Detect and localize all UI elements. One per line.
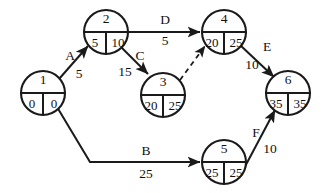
edge-d-duration: 5 [162,33,169,48]
edge-f-label: F [252,125,260,140]
node-1-earliest: 0 [29,96,36,111]
edge-dummy-3-4 [180,46,205,80]
node-4-id: 4 [221,11,228,26]
edge-d: D 5 [128,12,200,48]
edge-a-label: A [65,48,75,63]
node-4-earliest: 20 [206,35,219,50]
node-3-earliest: 20 [145,98,158,113]
node-6-latest: 35 [294,96,307,111]
edge-dummy-3-4-line [180,46,205,80]
edge-c-duration: 15 [118,64,132,79]
node-6-id: 6 [285,72,292,87]
edge-c-label: C [135,48,144,63]
node-6-earliest: 35 [270,96,283,111]
edge-b: B 25 [57,107,200,181]
edge-a: A 5 [59,46,88,81]
node-6[interactable]: 6 35 35 [266,71,310,115]
edge-a-duration: 5 [76,66,83,81]
node-5[interactable]: 5 25 25 [202,140,246,184]
node-1-latest: 0 [51,96,58,111]
node-2-id: 2 [103,11,110,26]
node-2[interactable]: 2 5 10 [84,10,128,54]
edge-e: E 10 [240,39,274,77]
edge-b-label: B [141,143,150,158]
node-4-latest: 25 [230,35,243,50]
network-diagram-canvas: A 5 C 15 D 5 E 10 B 25 [0,0,329,193]
node-5-earliest: 25 [206,165,219,180]
edge-f-duration: 10 [263,141,277,156]
edge-d-label: D [160,12,170,27]
edge-e-duration: 10 [245,57,259,72]
node-3-latest: 25 [169,98,182,113]
edge-b-duration: 25 [139,166,153,181]
node-1-id: 1 [40,72,47,87]
edge-b-line [57,107,200,162]
edge-c: C 15 [118,47,148,79]
node-3[interactable]: 3 20 25 [141,73,185,117]
edge-e-label: E [263,39,271,54]
node-2-earliest: 5 [92,35,99,50]
node-4[interactable]: 4 20 25 [202,10,246,54]
node-1[interactable]: 1 0 0 [21,71,65,115]
node-5-latest: 25 [230,165,243,180]
node-3-id: 3 [160,74,167,89]
network-diagram: A 5 C 15 D 5 E 10 B 25 [0,0,329,193]
node-2-latest: 10 [112,35,125,50]
node-5-id: 5 [221,141,228,156]
